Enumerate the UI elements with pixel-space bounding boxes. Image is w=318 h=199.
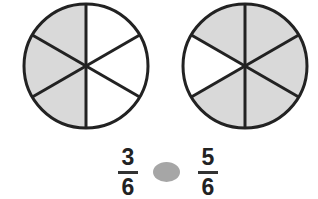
denominator-left: 6 (116, 176, 140, 198)
fraction-right: 5 6 (196, 146, 220, 198)
comparison-blank[interactable] (153, 162, 180, 182)
shaded-sectors-left (24, 4, 86, 128)
circle-left (24, 4, 148, 128)
fraction-left: 3 6 (116, 146, 140, 198)
denominator-right: 6 (196, 176, 220, 198)
circle-right (183, 4, 307, 128)
numerator-left: 3 (116, 146, 140, 168)
numerator-right: 5 (196, 146, 220, 168)
